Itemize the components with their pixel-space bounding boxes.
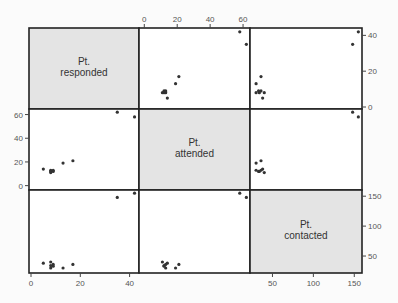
data-point: [245, 43, 248, 46]
variable-label: Pt.: [78, 56, 90, 67]
data-point: [238, 30, 241, 33]
data-point: [174, 266, 177, 269]
scatter-cell-responded-vs-attended: [139, 28, 250, 109]
tick-label: 60: [239, 15, 248, 24]
data-point: [42, 262, 45, 265]
variable-label: Pt.: [188, 137, 200, 148]
data-point: [259, 169, 262, 172]
data-point: [116, 196, 119, 199]
tick-label: 0: [368, 103, 373, 112]
data-point: [49, 260, 52, 263]
data-point: [52, 263, 55, 266]
data-point: [177, 263, 180, 266]
data-point: [177, 75, 180, 78]
data-point: [259, 159, 262, 162]
data-point: [254, 82, 257, 85]
data-point: [238, 192, 241, 195]
data-point: [61, 162, 64, 165]
data-point: [263, 171, 266, 174]
data-point: [61, 266, 64, 269]
data-point: [52, 169, 55, 172]
tick-label: 0: [142, 15, 147, 24]
variable-label: Pt.: [300, 219, 312, 230]
tick-label: 0: [19, 182, 24, 191]
data-point: [71, 263, 74, 266]
diagonal-cell-contacted: Pt.contacted: [250, 190, 362, 273]
tick-label: 40: [14, 134, 23, 143]
data-point: [42, 167, 45, 170]
data-point: [261, 96, 264, 99]
tick-label: 100: [307, 279, 321, 288]
tick-label: 150: [348, 279, 362, 288]
tick-label: 20: [368, 67, 377, 76]
data-point: [161, 260, 164, 263]
data-point: [133, 115, 136, 118]
scatter-cell-attended-vs-contacted: [250, 109, 362, 190]
data-point: [164, 263, 167, 266]
tick-label: 100: [368, 222, 382, 231]
tick-label: 150: [368, 192, 382, 201]
data-point: [259, 75, 262, 78]
data-point: [174, 82, 177, 85]
data-point: [357, 30, 360, 33]
data-point: [259, 89, 262, 92]
data-point: [245, 196, 248, 199]
data-point: [254, 162, 257, 165]
data-point: [263, 91, 266, 94]
tick-label: 50: [268, 279, 277, 288]
scatter-cell-attended-vs-responded: [29, 109, 139, 190]
data-point: [166, 96, 169, 99]
variable-label: responded: [60, 67, 107, 78]
scatterplot-matrix: Pt.respondedPt.attendedPt.contacted02040…: [0, 0, 398, 303]
data-point: [351, 43, 354, 46]
data-point: [133, 192, 136, 195]
tick-label: 40: [206, 15, 215, 24]
data-point: [351, 111, 354, 114]
tick-label: 20: [76, 279, 85, 288]
tick-label: 0: [29, 279, 34, 288]
tick-label: 20: [173, 15, 182, 24]
variable-label: attended: [175, 148, 214, 159]
scatter-cell-contacted-vs-attended: [139, 190, 250, 273]
data-point: [71, 159, 74, 162]
tick-label: 40: [125, 279, 134, 288]
diagonal-cell-responded: Pt.responded: [29, 28, 139, 109]
tick-label: 20: [14, 158, 23, 167]
variable-label: contacted: [284, 230, 327, 241]
scatter-cell-contacted-vs-responded: [29, 190, 139, 273]
scatter-cell-responded-vs-contacted: [250, 28, 362, 109]
data-point: [357, 115, 360, 118]
diagonal-cell-attended: Pt.attended: [139, 109, 250, 190]
data-point: [164, 89, 167, 92]
tick-label: 60: [14, 111, 23, 120]
tick-label: 50: [368, 252, 377, 261]
tick-label: 40: [368, 31, 377, 40]
data-point: [116, 111, 119, 114]
